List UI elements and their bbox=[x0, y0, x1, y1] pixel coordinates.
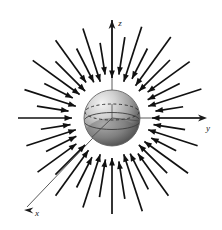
field-arrow bbox=[109, 20, 115, 78]
sphere bbox=[84, 90, 140, 154]
field-arrow bbox=[117, 37, 125, 75]
field-arrow bbox=[123, 27, 141, 82]
field-arrow bbox=[25, 90, 76, 107]
field-arrow-head bbox=[68, 136, 76, 142]
field-arrow-head bbox=[148, 94, 156, 100]
field-arrow-shaft bbox=[148, 130, 197, 146]
sphere-lower-band bbox=[84, 118, 140, 154]
field-arrow-head bbox=[109, 158, 115, 166]
axis-arrowhead-x bbox=[24, 208, 33, 214]
field-arrow-head bbox=[148, 101, 156, 107]
field-arrow-head bbox=[109, 71, 115, 79]
field-arrow-head bbox=[86, 157, 92, 165]
field-arrow bbox=[26, 129, 75, 146]
field-arrow-shaft bbox=[26, 130, 75, 146]
field-arrow-head bbox=[123, 74, 129, 82]
field-arrow bbox=[99, 159, 107, 197]
field-arrow bbox=[37, 106, 69, 113]
field-arrow bbox=[83, 154, 101, 207]
field-arrow bbox=[152, 115, 204, 121]
field-arrow-head bbox=[148, 129, 156, 135]
field-arrow-shaft bbox=[124, 154, 143, 211]
field-arrow-head bbox=[65, 92, 73, 98]
field-arrow-head bbox=[117, 161, 123, 169]
field-arrow-head bbox=[68, 101, 76, 107]
field-arrow-head bbox=[153, 123, 161, 129]
field-arrow-head bbox=[155, 107, 163, 113]
field-arrow-shaft bbox=[83, 29, 100, 82]
field-arrow bbox=[153, 123, 185, 130]
field-arrow-head bbox=[95, 154, 101, 162]
field-arrow bbox=[155, 107, 183, 113]
field-arrow bbox=[123, 154, 142, 211]
field-arrow bbox=[18, 115, 72, 121]
field-arrow-head bbox=[130, 154, 136, 162]
field-arrow-head bbox=[63, 123, 71, 129]
field-arrow-head bbox=[152, 115, 160, 121]
field-arrow-head bbox=[117, 67, 123, 75]
field-arrow bbox=[109, 158, 115, 214]
axis-label-z: z bbox=[117, 18, 122, 28]
field-arrow bbox=[77, 157, 92, 187]
field-arrow-shaft bbox=[148, 89, 201, 106]
figure-canvas: z y x bbox=[0, 0, 222, 230]
field-arrow-head bbox=[95, 74, 101, 82]
field-arrow-head bbox=[61, 107, 69, 113]
field-arrow bbox=[41, 123, 71, 129]
field-arrow bbox=[148, 89, 201, 107]
field-arrow-head bbox=[123, 154, 129, 162]
field-arrow bbox=[117, 161, 125, 199]
field-arrow-head bbox=[101, 67, 107, 75]
field-arrow-head bbox=[132, 71, 138, 79]
axis-label-x: x bbox=[34, 208, 39, 218]
axis-label-y: y bbox=[205, 123, 210, 133]
field-arrow-head bbox=[65, 115, 73, 121]
field-arrow-head bbox=[68, 129, 76, 135]
field-arrow bbox=[83, 29, 101, 82]
field-arrow-head bbox=[88, 74, 94, 82]
field-arrow-head bbox=[101, 159, 107, 167]
field-arrow bbox=[132, 49, 147, 79]
field-arrow bbox=[38, 144, 77, 172]
field-arrow bbox=[148, 129, 197, 146]
field-arrow bbox=[100, 43, 107, 75]
field-arrow-head bbox=[151, 138, 159, 144]
vector-field-figure: z y x bbox=[0, 0, 222, 230]
field-arrow-shaft bbox=[83, 154, 100, 207]
field-arrow-shaft bbox=[25, 90, 76, 107]
